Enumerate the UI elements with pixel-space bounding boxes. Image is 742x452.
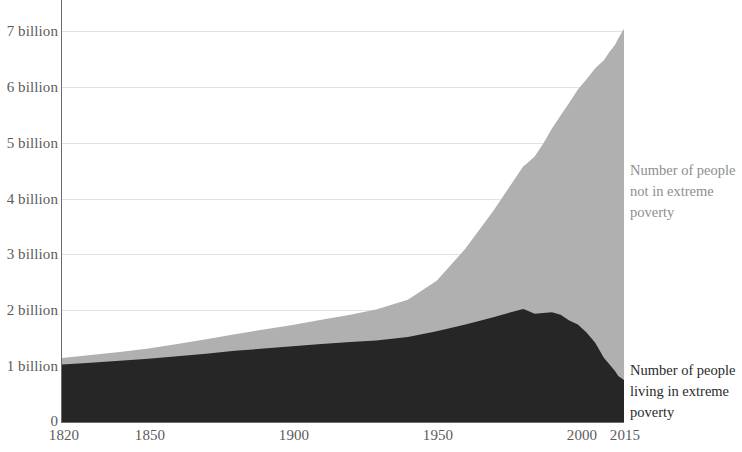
x-axis-tick-label: 1900 bbox=[279, 428, 309, 443]
series-label-not-extreme-poverty: Number of people not in extreme poverty bbox=[630, 160, 742, 223]
x-axis-tick-label: 1820 bbox=[49, 428, 79, 443]
y-axis-tick-label: 5 billion bbox=[7, 136, 58, 151]
x-axis-line bbox=[62, 422, 624, 423]
plot-area bbox=[62, 0, 624, 422]
y-axis-tick-label: 4 billion bbox=[7, 192, 58, 207]
x-axis-tick-label: 2015 bbox=[610, 428, 640, 443]
x-axis-tick-label: 1950 bbox=[423, 428, 453, 443]
y-axis-tick-label: 2 billion bbox=[7, 303, 58, 318]
y-axis-tick-label: 3 billion bbox=[7, 247, 58, 262]
x-axis-tick-label: 2000 bbox=[567, 428, 597, 443]
y-axis-tick-label: 6 billion bbox=[7, 80, 58, 95]
y-axis-tick-label: 1 billion bbox=[7, 359, 58, 374]
y-axis-tick-label: 7 billion bbox=[7, 24, 58, 39]
series-label-extreme-poverty: Number of people living in extreme pover… bbox=[630, 360, 742, 423]
x-axis-tick-label: 1850 bbox=[135, 428, 165, 443]
area-series-svg bbox=[62, 0, 624, 422]
y-axis-line bbox=[61, 0, 62, 423]
poverty-area-chart: 7 billion 6 billion 5 billion 4 billion … bbox=[0, 0, 742, 452]
